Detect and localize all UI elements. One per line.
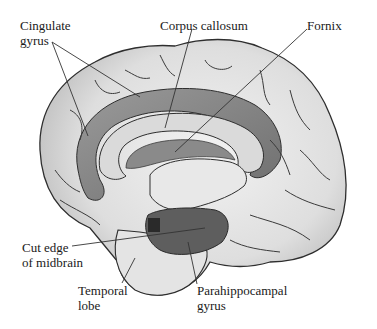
- midbrain-cut-edge: [148, 218, 160, 232]
- label-corpus-callosum: Corpus callosum: [160, 18, 248, 33]
- label-cut-edge-of-midbrain: Cut edge of midbrain: [22, 240, 83, 270]
- label-cingulate-gyrus: Cingulate gyrus: [20, 18, 71, 48]
- label-temporal-lobe: Temporal lobe: [78, 283, 128, 313]
- label-fornix: Fornix: [307, 18, 342, 33]
- brain-diagram: Cingulate gyrus Corpus callosum Fornix C…: [0, 0, 377, 329]
- label-parahippocampal-gyrus: Parahippocampal gyrus: [197, 283, 287, 313]
- brain-illustration: [0, 0, 377, 329]
